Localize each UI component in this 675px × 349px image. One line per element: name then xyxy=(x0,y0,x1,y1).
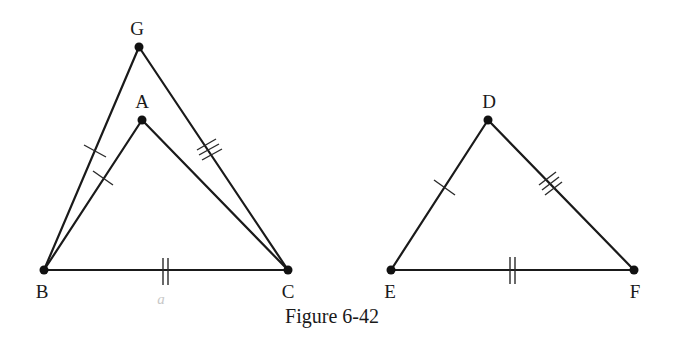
label-G: G xyxy=(130,18,144,39)
tick-mark-AB xyxy=(93,171,113,185)
segment-AC xyxy=(142,120,288,270)
point-F xyxy=(630,266,639,275)
segment-GC xyxy=(139,47,288,270)
point-A xyxy=(138,116,147,125)
label-D: D xyxy=(482,91,496,112)
point-B xyxy=(40,266,49,275)
handwritten-note: a xyxy=(157,291,165,307)
triple-tick-mark-GC xyxy=(197,139,222,160)
double-tick-mark-BC xyxy=(163,258,168,285)
figure-caption: Figure 6-42 xyxy=(285,305,379,328)
segment-DF xyxy=(488,120,634,270)
label-F: F xyxy=(630,281,641,302)
point-C xyxy=(284,266,293,275)
segment-DE xyxy=(391,120,488,270)
label-E: E xyxy=(384,281,396,302)
tick-mark-GB xyxy=(84,145,106,157)
point-D xyxy=(484,116,493,125)
segment-GB xyxy=(44,47,139,270)
tick-mark-DE xyxy=(434,180,455,195)
left-figure: G A B C a xyxy=(36,18,295,307)
point-G xyxy=(135,43,144,52)
segment-AB xyxy=(44,120,142,270)
label-C: C xyxy=(282,281,295,302)
geometry-figure: G A B C a D E F Figure 6-42 xyxy=(0,0,675,349)
label-B: B xyxy=(36,281,49,302)
right-figure: D E F xyxy=(384,91,640,302)
label-A: A xyxy=(135,91,149,112)
point-E xyxy=(387,266,396,275)
